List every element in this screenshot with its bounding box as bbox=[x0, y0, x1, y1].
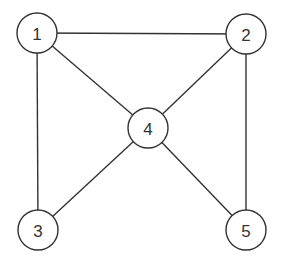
node-4: 4 bbox=[128, 108, 168, 148]
node-1: 1 bbox=[17, 13, 57, 53]
edge-1-3 bbox=[37, 33, 38, 230]
edge-4-3 bbox=[38, 128, 148, 230]
node-label: 3 bbox=[33, 222, 42, 241]
node-label: 4 bbox=[143, 120, 152, 139]
node-label: 1 bbox=[32, 25, 41, 44]
graph-diagram: 12345 bbox=[0, 0, 281, 265]
edge-4-5 bbox=[148, 128, 246, 230]
edge-1-2 bbox=[37, 33, 246, 34]
node-label: 2 bbox=[241, 26, 250, 45]
node-2: 2 bbox=[226, 14, 266, 54]
node-5: 5 bbox=[226, 210, 266, 250]
node-label: 5 bbox=[241, 222, 250, 241]
edge-1-4 bbox=[37, 33, 148, 128]
node-3: 3 bbox=[18, 210, 58, 250]
